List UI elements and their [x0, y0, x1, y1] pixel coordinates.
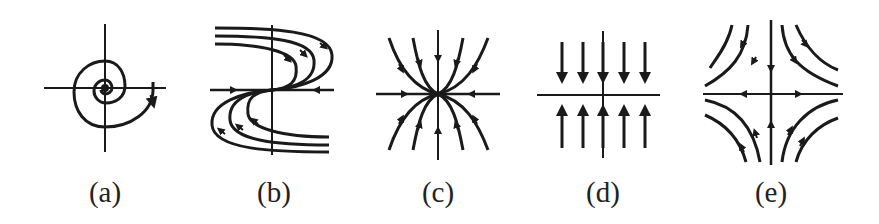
panel-e-arrow [755, 132, 757, 138]
panel-a-equilibrium-point [101, 84, 109, 92]
panel-c-label: (c) [422, 178, 454, 207]
panel-c-trajectory [438, 94, 463, 150]
panel-e-arrow [753, 57, 756, 62]
panel-c-trajectory [413, 94, 438, 150]
panel-a-spiral [44, 24, 166, 152]
panel-c-trajectory [438, 94, 488, 150]
panel-e-hyperbola [796, 25, 838, 70]
panel-b-arrow [220, 130, 225, 134]
panel-e-saddle [703, 20, 843, 165]
panel-e-label: (e) [755, 178, 787, 207]
panel-e-hyperbola [705, 100, 760, 162]
panel-b-arrow [238, 126, 243, 130]
panel-b-label: (b) [257, 178, 291, 207]
phase-portrait-figure: (a) (b) (c) (d) (e) [0, 0, 879, 224]
panel-a-label: (a) [89, 178, 121, 207]
panel-b-arrow [300, 50, 305, 55]
panel-e-hyperbola [710, 25, 732, 68]
panel-c-stable-node [376, 30, 500, 160]
panel-c-trajectory [438, 38, 463, 94]
panel-c-trajectory [438, 38, 488, 94]
panel-b-upper-curve-3 [215, 44, 296, 90]
panel-c-trajectory [413, 38, 438, 94]
panel-d-line-equilibria [537, 31, 660, 158]
panel-a-spiral-trajectory [74, 61, 153, 127]
panel-b-lower-curve-3 [248, 90, 329, 137]
panel-a-arrow [151, 95, 153, 103]
panel-e-hyperbola [705, 25, 748, 86]
panel-b-saddle-node [210, 25, 334, 155]
panel-e-hyperbola [705, 115, 746, 162]
panel-d-label: (d) [586, 178, 620, 207]
